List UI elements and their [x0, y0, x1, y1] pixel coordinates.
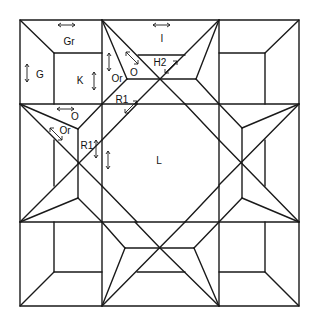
- label-r1-left: R1: [81, 140, 94, 151]
- arrow-horizontal-icon: [153, 23, 170, 27]
- arrow-vertical-icon: [94, 140, 98, 158]
- block-top-right: [219, 20, 299, 104]
- block-right-middle: [219, 104, 299, 222]
- label-r1-top: R1: [116, 94, 129, 105]
- label-or-top: Or: [111, 73, 123, 84]
- block-bottom-left: [20, 222, 102, 306]
- label-o-top: O: [130, 67, 138, 78]
- arrow-vertical-icon: [107, 53, 111, 71]
- arrow-horizontal-icon: [58, 23, 75, 27]
- label-gr: Gr: [63, 36, 75, 47]
- label-h2: H2: [154, 57, 167, 68]
- label-k: K: [77, 75, 84, 86]
- label-i: I: [161, 33, 164, 44]
- label-g: G: [36, 69, 44, 80]
- block-top-left: [20, 20, 102, 104]
- block-bottom-right: [219, 222, 299, 306]
- arrow-vertical-icon: [92, 72, 96, 90]
- block-left-middle: [20, 104, 102, 222]
- label-l: L: [156, 155, 162, 166]
- grain-arrows: [25, 23, 177, 169]
- arrow-diagonal-icon: [165, 61, 177, 73]
- label-o-left: O: [71, 111, 79, 122]
- arrow-vertical-icon: [106, 151, 110, 169]
- block-bottom-middle: [102, 222, 219, 306]
- quilt-diagram: Gr G K Or O I H2 R1 O Or R1 L: [0, 0, 314, 326]
- arrow-vertical-icon: [25, 64, 29, 82]
- label-or-left: Or: [59, 125, 71, 136]
